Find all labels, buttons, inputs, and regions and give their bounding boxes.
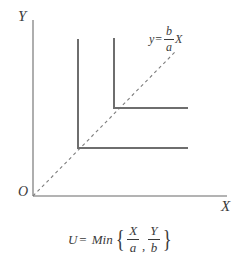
ray-equation-equals: = bbox=[155, 33, 162, 45]
ray-equation-lhs: y bbox=[149, 33, 154, 45]
utility-second-numerator: Y bbox=[148, 224, 159, 238]
expansion-ray-dashed-line bbox=[33, 52, 175, 196]
indifference-curve-1 bbox=[78, 39, 188, 148]
min-operator: Min bbox=[92, 233, 113, 246]
utility-symbol: U bbox=[68, 233, 77, 246]
ray-equation-multiplicand: X bbox=[175, 33, 182, 45]
brace-close: } bbox=[162, 228, 171, 250]
utility-second-fraction: Y b bbox=[148, 224, 159, 254]
utility-comma: , bbox=[142, 239, 145, 254]
utility-first-fraction: X a bbox=[127, 224, 139, 254]
x-axis-label: X bbox=[221, 199, 230, 214]
utility-first-denominator: a bbox=[128, 241, 139, 255]
origin-label: O bbox=[18, 185, 28, 199]
utility-first-numerator: X bbox=[127, 224, 139, 238]
ray-equation-numerator: b bbox=[164, 25, 174, 38]
utility-equals: = bbox=[79, 233, 86, 246]
utility-formula-caption: U = Min { X a , Y b } bbox=[0, 224, 241, 254]
brace-open: { bbox=[115, 228, 124, 250]
utility-second-denominator: b bbox=[149, 241, 160, 255]
ray-equation-fraction: b a bbox=[164, 25, 174, 53]
leontief-indifference-figure: Y X O y = b a X U = Min { X a , Y b } bbox=[0, 0, 241, 272]
ray-equation-label: y = b a X bbox=[149, 25, 182, 53]
y-axis-label: Y bbox=[18, 9, 26, 24]
ray-equation-denominator: a bbox=[164, 41, 174, 54]
